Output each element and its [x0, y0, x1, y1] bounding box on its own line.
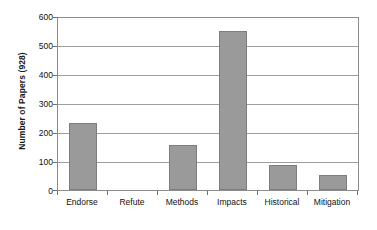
- bar-mitigation[interactable]: [319, 175, 347, 190]
- x-axis-labels: Endorse Refute Methods Impacts Historica…: [57, 197, 359, 215]
- x-tick-mark-1: [107, 191, 108, 195]
- x-label-refute: Refute: [107, 197, 157, 207]
- x-label-impacts: Impacts: [207, 197, 257, 207]
- y-tick-label-100: 100: [9, 157, 53, 167]
- x-tick-mark-2: [157, 191, 158, 195]
- bar-slot-mitigation: [308, 18, 358, 190]
- x-label-mitigation: Mitigation: [307, 197, 357, 207]
- bar-slot-historical: [258, 18, 308, 190]
- bar-chart: Number of Papers (928) 600 500 400 300 2…: [0, 0, 377, 230]
- bar-slot-endorse: [58, 18, 108, 190]
- y-tick-label-400: 400: [9, 70, 53, 80]
- x-tick-mark-0: [57, 191, 58, 195]
- x-label-methods: Methods: [157, 197, 207, 207]
- y-tick-label-0: 0: [9, 186, 53, 196]
- bar-slot-methods: [158, 18, 208, 190]
- x-tick-mark-3: [207, 191, 208, 195]
- x-axis-ticks: [57, 191, 359, 196]
- bars-layer: [58, 18, 358, 190]
- x-tick-mark-6: [357, 191, 358, 195]
- y-tick-label-500: 500: [9, 41, 53, 51]
- x-tick-mark-5: [307, 191, 308, 195]
- x-label-historical: Historical: [257, 197, 307, 207]
- bar-methods[interactable]: [169, 145, 197, 190]
- bar-historical[interactable]: [269, 165, 297, 190]
- x-label-endorse: Endorse: [57, 197, 107, 207]
- x-tick-mark-4: [257, 191, 258, 195]
- bar-slot-impacts: [208, 18, 258, 190]
- bar-slot-refute: [108, 18, 158, 190]
- y-axis-ticks: 600 500 400 300 200 100 0: [5, 17, 53, 191]
- y-tick-label-300: 300: [9, 99, 53, 109]
- bar-endorse[interactable]: [69, 123, 97, 190]
- y-tick-label-600: 600: [9, 12, 53, 22]
- bar-impacts[interactable]: [219, 31, 247, 190]
- plot-area: [57, 17, 359, 191]
- y-tick-label-200: 200: [9, 128, 53, 138]
